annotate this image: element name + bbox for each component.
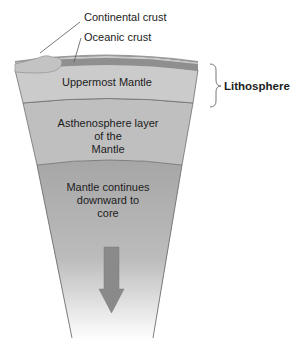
deep-mantle-label-line2: downward to bbox=[77, 194, 139, 207]
right-curly-brace-icon bbox=[210, 64, 221, 107]
oceanic-crust-label: Oceanic crust bbox=[84, 31, 151, 44]
lithosphere-label: Lithosphere bbox=[224, 80, 290, 93]
earth-cross-section bbox=[0, 0, 297, 350]
continental-crust-shape bbox=[15, 56, 62, 73]
continental-crust-label: Continental crust bbox=[84, 11, 167, 24]
uppermost-mantle-label: Uppermost Mantle bbox=[62, 76, 152, 89]
deep-mantle-label-line3: core bbox=[97, 207, 118, 220]
asthenosphere-label-line3: Mantle bbox=[91, 143, 124, 156]
asthenosphere-label-line2: of the bbox=[94, 130, 122, 143]
continental-crust-leader bbox=[40, 22, 80, 53]
deep-mantle-label-line1: Mantle continues bbox=[66, 181, 149, 194]
asthenosphere-label-line1: Asthenosphere layer bbox=[58, 117, 159, 130]
